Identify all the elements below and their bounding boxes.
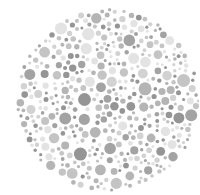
plate-dot [145,36,149,40]
plate-dot [161,112,165,116]
plate-dot [78,182,84,188]
plate-dot [187,98,194,105]
plate-dot [100,156,103,159]
plate-dot [53,157,56,160]
plate-dot [72,130,75,133]
plate-dot [46,161,55,170]
plate-dot [164,156,167,159]
plate-dot [141,53,144,56]
plate-dot [78,61,85,68]
plate-dot [64,101,67,104]
plate-dot [80,85,86,91]
plate-dot [49,133,59,143]
plate-dot [134,156,140,162]
plate-dot [126,102,135,111]
plate-dot [128,96,132,100]
plate-dot [144,159,147,162]
plate-dot [69,124,74,129]
plate-dot [177,54,181,58]
plate-dot [81,161,86,166]
plate-dot [52,123,57,128]
plate-dot [108,62,111,65]
plate-dot [43,106,48,111]
plate-dot [127,116,132,121]
plate-dot [114,32,117,35]
plate-dot [66,80,70,84]
plate-dot [103,128,108,133]
plate-dot [63,72,69,78]
plate-dot [161,138,165,142]
plate-dot [182,98,185,101]
plate-dot [177,74,190,87]
plate-dot [21,121,27,127]
plate-dot [101,152,104,155]
plate-dot [98,62,105,69]
plate-dot [74,88,79,93]
plate-dot [73,134,77,138]
plate-dot [64,126,68,130]
plate-dot [57,147,61,151]
plate-dot [155,164,158,167]
plate-dot [100,46,104,50]
plate-dot [81,43,92,54]
plate-dot [44,97,49,102]
plate-dot [85,77,95,87]
plate-dot [91,146,94,149]
plate-dot [33,138,36,141]
plate-dot [98,143,102,147]
plate-dot [151,77,155,81]
plate-dot [143,118,147,122]
plate-dot [70,76,75,81]
plate-dot [168,140,177,149]
plate-dot [120,68,128,76]
plate-dot [76,141,79,144]
plate-dot [152,94,157,99]
plate-dot [138,99,142,103]
plate-dot [96,82,106,92]
plate-dot [82,131,89,138]
plate-dot [113,62,116,65]
plate-dot [82,55,85,58]
plate-dot [176,90,181,95]
plate-dot [88,149,91,152]
plate-dot [104,104,109,109]
plate-dot [159,165,162,168]
plate-dot [113,10,117,14]
plate-dot [139,103,148,112]
plate-dot [134,32,138,36]
plate-dot [128,53,139,64]
plate-dots [17,8,200,191]
plate-dot [43,83,49,89]
plate-dot [93,153,96,156]
plate-dot [62,87,69,94]
plate-dot [138,25,145,32]
plate-dot [69,101,73,105]
plate-dot [118,169,121,172]
plate-dot [92,98,96,102]
plate-dot [109,50,112,53]
plate-dot [71,98,74,101]
plate-dot [130,124,134,128]
plate-dot [80,27,83,30]
plate-dot [128,184,132,188]
plate-dot [183,146,186,149]
plate-dot [96,31,101,36]
plate-dot [118,80,122,84]
plate-dot [178,145,182,149]
plate-dot [114,92,118,96]
plate-dot [197,99,199,102]
plate-dot [114,138,117,141]
plate-dot [112,41,115,44]
plate-dot [165,56,168,59]
plate-dot [28,82,33,87]
plate-dot [34,90,42,98]
plate-dot [41,143,49,151]
plate-dot [96,48,99,51]
plate-dot [107,111,113,117]
plate-dot [17,108,20,111]
plate-dot [129,13,134,18]
plate-dot [90,88,94,92]
plate-dot [115,23,120,28]
plate-dot [151,145,154,148]
plate-dot [154,87,158,91]
